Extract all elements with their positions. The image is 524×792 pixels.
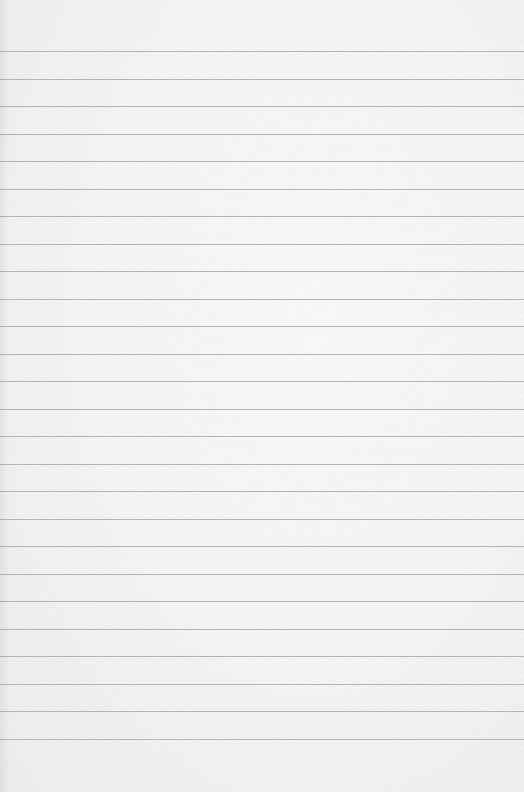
ruled-line: [0, 79, 524, 80]
ruled-line: [0, 601, 524, 602]
ruled-line: [0, 684, 524, 685]
ruled-line: [0, 106, 524, 107]
ruled-line: [0, 189, 524, 190]
ruled-line: [0, 546, 524, 547]
ruled-line: [0, 409, 524, 410]
ruled-line: [0, 491, 524, 492]
ruled-line: [0, 216, 524, 217]
ruled-line: [0, 354, 524, 355]
ruled-line: [0, 464, 524, 465]
ruled-line: [0, 436, 524, 437]
ruled-line: [0, 629, 524, 630]
ruled-line: [0, 574, 524, 575]
ruled-line: [0, 51, 524, 52]
ruled-line: [0, 711, 524, 712]
ruled-line: [0, 381, 524, 382]
ruled-line: [0, 519, 524, 520]
lined-paper-sheet: [0, 0, 524, 792]
ruled-line: [0, 739, 524, 740]
ruled-line: [0, 134, 524, 135]
ruled-line: [0, 326, 524, 327]
ruled-line: [0, 656, 524, 657]
ruled-line: [0, 271, 524, 272]
ruled-line: [0, 244, 524, 245]
ruled-line: [0, 161, 524, 162]
ruled-line: [0, 299, 524, 300]
